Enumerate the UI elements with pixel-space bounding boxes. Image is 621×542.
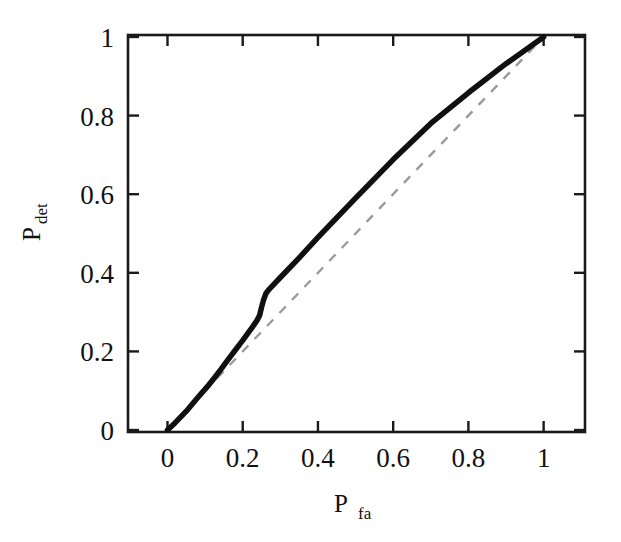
x-axis-title: P fa (334, 490, 372, 523)
y-tick-label-3: 0.6 (80, 180, 114, 210)
y-tick-label-4: 0.8 (80, 102, 114, 132)
roc-figure: 00.20.40.60.81 00.20.40.60.81 P fa P det (0, 0, 621, 542)
y-axis-title: P det (18, 203, 51, 241)
x-tick-label-3: 0.6 (376, 443, 410, 473)
y-axis-title-base: P (18, 227, 45, 241)
y-axis-title-subscript: det (32, 203, 51, 224)
y-tick-label-1: 0.2 (80, 337, 114, 367)
x-tick-label-2: 0.4 (301, 443, 335, 473)
y-tick-label-0: 0 (101, 416, 115, 446)
x-tick-label-4: 0.8 (452, 443, 486, 473)
x-tick-label-1: 0.2 (226, 443, 260, 473)
roc-chart-svg: 00.20.40.60.81 00.20.40.60.81 P fa P det (0, 0, 621, 542)
x-tick-label-5: 1 (537, 443, 551, 473)
x-axis-title-subscript: fa (358, 504, 372, 523)
x-axis-title-base: P (334, 490, 348, 517)
y-tick-label-2: 0.4 (80, 259, 114, 289)
x-tick-label-0: 0 (161, 443, 175, 473)
y-tick-label-5: 1 (101, 23, 115, 53)
x-axis-tick-labels: 00.20.40.60.81 (161, 443, 551, 473)
y-axis-tick-labels: 00.20.40.60.81 (80, 23, 114, 446)
